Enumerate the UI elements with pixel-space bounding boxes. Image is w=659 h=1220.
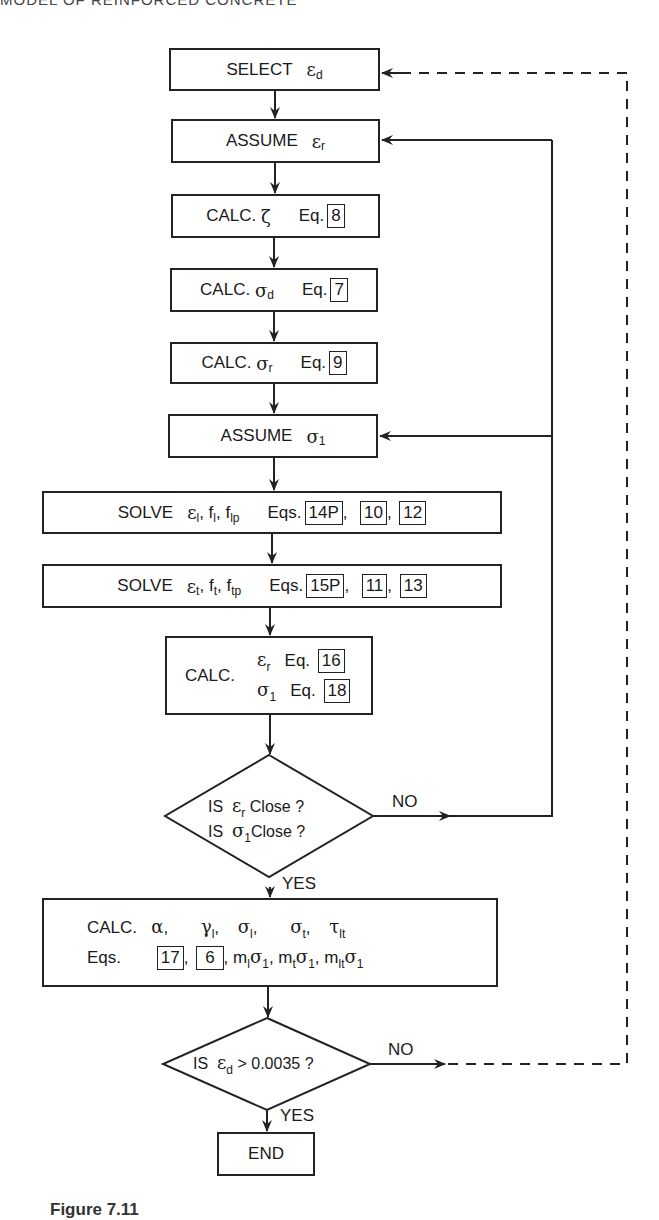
text: Close ? [250,798,304,815]
text: IS [208,798,223,815]
symbol: σ [306,426,318,447]
subscript: t [303,927,306,941]
symbol: m [278,948,292,967]
equation-ref: 10 [360,501,387,525]
assume-sigma-1-box: ASSUME σ1 [168,414,378,458]
subscript: 1 [319,434,326,448]
subscript: t [196,584,199,598]
symbol: α [151,916,163,937]
subscript: l [212,927,215,941]
symbol: τ [329,916,339,937]
equation-ref: 12 [399,501,426,525]
end-label: END [248,1144,284,1164]
select-epsilon-d-box: SELECT εd [169,48,380,91]
subscript: r [266,660,270,674]
eq-label: Eq. [285,651,311,670]
subscript: d [226,1063,233,1077]
subscript: t [214,584,217,598]
calc-row: σ1 Eq. 18 [257,679,350,703]
box-verb: CALC. [87,918,137,937]
equation-ref: 7 [330,278,347,302]
subscript: d [316,68,323,82]
symbol: ε [307,59,316,80]
eq-label: Eq. [301,353,327,373]
text: IS [193,1055,208,1072]
calc-vars-row: CALC. α, γl, σl, σt, τlt [87,916,345,938]
box-verb: CALC. [201,353,251,373]
subscript: l [247,957,250,971]
calc-sigma-r-box: CALC. σr Eq.9 [170,342,378,384]
subscript: 1 [269,690,276,704]
subscript: 1 [244,831,251,845]
equation-ref: 15P [306,574,344,598]
symbol: σ [238,916,250,937]
box-verb: CALC. [185,666,235,686]
subscript: d [267,288,274,302]
decision-line-1: IS εr Close ? [208,795,304,816]
symbol: ε [217,1052,226,1073]
calc-zeta-box: CALC. ζ Eq.8 [171,194,380,238]
symbol: m [233,948,247,967]
box-verb: SOLVE [117,576,172,596]
calc-eqs-row: Eqs. 17, 6, mlσ1, mtσ1, mltσ1 [87,946,363,970]
subscript: lp [230,511,239,525]
eq-label: Eqs. [268,503,302,523]
symbol: σ [296,946,308,967]
eq-label: Eq. [302,280,328,300]
decision-text: IS εd > 0.0035 ? [193,1052,314,1073]
calc-sigma-d-box: CALC. σd Eq.7 [170,268,378,312]
subscript: tp [231,584,241,598]
box-verb: SELECT [226,60,292,80]
subscript: 1 [357,957,364,971]
text: Close ? [251,823,305,840]
symbol: m [324,948,338,967]
subscript: 1 [308,957,315,971]
text: > 0.0035 ? [237,1055,313,1072]
symbol: ζ [261,206,271,227]
solve-transverse-box: SOLVE εt, ft, ftp Eqs. 15P, 11, 13 [42,564,502,608]
decision-line-2: IS σ1Close ? [208,820,305,841]
symbol: ε [187,576,196,597]
subscript: lt [339,927,345,941]
equation-ref: 8 [327,204,344,228]
symbol: σ [257,679,269,700]
equation-ref: 6 [196,946,223,970]
box-verb: SOLVE [118,503,173,523]
subscript: l [250,927,253,941]
symbol: σ [344,946,356,967]
symbol: σ [232,820,244,841]
assume-epsilon-r-box: ASSUME εr [171,119,380,163]
box-verb: CALC. [200,280,250,300]
subscript: r [241,806,245,820]
subscript: r [269,361,273,375]
symbol: γ [201,916,212,937]
figure-caption: Figure 7.11 [50,1200,139,1220]
symbol: σ [250,946,262,967]
equation-ref: 16 [318,649,345,673]
eq-label: Eq. [299,206,325,226]
box-verb: CALC. [206,206,256,226]
symbol: ε [257,649,266,670]
equation-ref: 9 [329,351,346,375]
symbol: ε [187,502,196,523]
yes-label: YES [280,1106,314,1126]
equation-ref: 13 [400,574,427,598]
eq-label: Eqs. [269,576,303,596]
symbol: σ [290,916,302,937]
equation-ref: 14P [305,501,343,525]
eq-label: Eq. [290,681,316,700]
no-label: NO [388,1040,414,1060]
subscript: lt [338,957,344,971]
subscript: l [196,511,199,525]
equation-ref: 18 [324,679,351,703]
symbol: σ [255,280,267,301]
calc-row: εr Eq. 16 [257,649,350,673]
equation-ref: 11 [362,574,388,598]
box-verb: ASSUME [221,426,293,446]
symbol: σ [256,353,268,374]
subscript: t [293,957,296,971]
end-box: END [217,1132,315,1176]
equation-ref: 17 [157,946,184,970]
box-verb: ASSUME [226,131,298,151]
eq-label: Eqs. [87,948,121,967]
